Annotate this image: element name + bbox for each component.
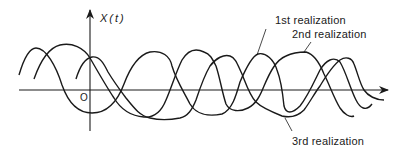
realization-1-leader-line [257,29,266,55]
realization-3-label: 3rd realization [292,136,364,147]
realization-1-label: 1st realization [275,15,346,26]
random-process-figure: X(t) O 1st realization 2nd realization 3… [0,0,409,151]
y-axis-label: X(t) [100,13,126,24]
diagram-canvas [0,0,409,151]
origin-label: O [80,93,88,103]
realization-1-curve [19,48,372,115]
realization-3-leader-line [285,118,292,131]
realization-2-label: 2nd realization [292,29,367,40]
realization-2-leader-line [304,42,311,52]
